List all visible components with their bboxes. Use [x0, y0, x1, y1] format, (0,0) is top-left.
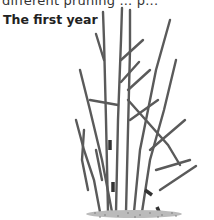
shrub-illustration [0, 0, 214, 220]
